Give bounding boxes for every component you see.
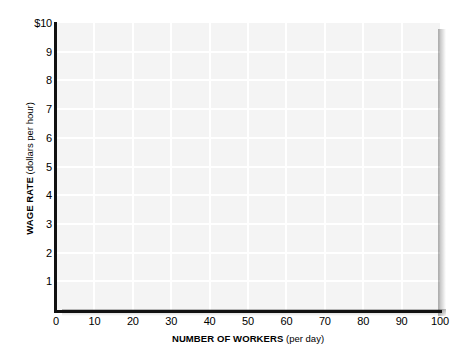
x-axis-tick-label: 10 — [74, 316, 114, 327]
x-axis-tick-labels: 0102030405060708090100 — [0, 0, 476, 361]
y-axis-title: WAGE RATE (dollars per hour) — [24, 79, 35, 259]
wage-rate-chart: 123456789$10 0102030405060708090100 WAGE… — [0, 0, 476, 361]
y-axis-title-paren: (dollars per hour) — [24, 102, 35, 174]
y-axis-title-strong: WAGE RATE — [24, 177, 35, 235]
x-axis-title-paren: (per day) — [286, 333, 324, 344]
x-axis-tick-label: 30 — [151, 316, 191, 327]
x-axis-tick-label: 90 — [382, 316, 422, 327]
x-axis-tick-label: 100 — [420, 316, 460, 327]
x-axis-tick-label: 20 — [113, 316, 153, 327]
x-axis-tick-label: 70 — [305, 316, 345, 327]
x-axis-title-strong: NUMBER OF WORKERS — [172, 333, 283, 344]
x-axis-tick-label: 0 — [36, 316, 76, 327]
x-axis-tick-label: 60 — [266, 316, 306, 327]
x-axis-tick-label: 40 — [190, 316, 230, 327]
x-axis-tick-label: 80 — [343, 316, 383, 327]
x-axis-title: NUMBER OF WORKERS (per day) — [56, 333, 440, 344]
x-axis-tick-label: 50 — [228, 316, 268, 327]
